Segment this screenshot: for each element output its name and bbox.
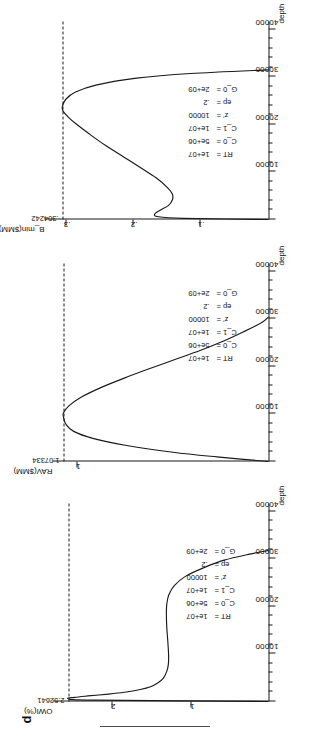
panel-rav: 10000 20000 30000 40000 depth 1 RAV($MM)…: [0, 249, 313, 489]
footer-rule: [100, 726, 210, 727]
panel-owi: d 10000: [0, 489, 313, 737]
figure-canvas: d 10000: [0, 0, 313, 737]
panel-bmin: 10000 20000 30000 40000 depth .1 .2 .3 B…: [0, 0, 313, 249]
owi-curve: [0, 489, 313, 737]
bmin-curve: [0, 0, 313, 249]
rav-curve: [0, 249, 313, 489]
